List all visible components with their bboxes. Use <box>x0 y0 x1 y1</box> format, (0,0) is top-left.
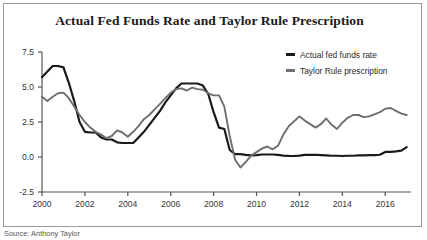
legend-item-taylor: Taylor Rule prescription <box>286 64 388 77</box>
chart-legend: Actual fed funds rate Taylor Rule prescr… <box>286 48 388 80</box>
x-tick-label: 2016 <box>367 199 403 209</box>
y-tick-label: 7.5 <box>8 47 34 57</box>
y-tick-label: 0.0 <box>8 152 34 162</box>
legend-swatch-taylor <box>286 69 295 72</box>
y-tick-label: 2.5 <box>8 117 34 127</box>
y-tick-label: 5.0 <box>8 82 34 92</box>
legend-label-actual: Actual fed funds rate <box>300 50 377 60</box>
x-tick-label: 2006 <box>153 199 189 209</box>
source-caption: Source: Anthony Taylor <box>4 229 423 239</box>
x-tick-label: 2010 <box>239 199 275 209</box>
legend-label-taylor: Taylor Rule prescription <box>300 66 388 76</box>
x-tick-label: 2012 <box>281 199 317 209</box>
x-tick-label: 2000 <box>24 199 60 209</box>
y-tick-label: -2.5 <box>8 187 34 197</box>
x-tick-label: 2008 <box>196 199 232 209</box>
legend-swatch-actual <box>286 53 295 56</box>
chart-figure: Actual Fed Funds Rate and Taylor Rule Pr… <box>0 0 427 240</box>
x-tick-label: 2014 <box>324 199 360 209</box>
x-tick-label: 2002 <box>67 199 103 209</box>
x-tick-label: 2004 <box>110 199 146 209</box>
plot-area <box>0 0 419 224</box>
legend-item-actual: Actual fed funds rate <box>286 48 388 61</box>
